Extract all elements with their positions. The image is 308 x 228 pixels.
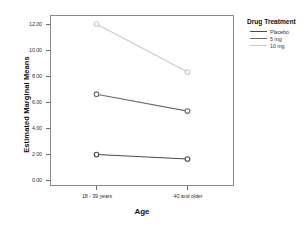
plot-frame [51, 16, 234, 186]
legend: Drug Treatment Placebo 5 mg 10 mg [244, 18, 306, 49]
data-point-marker [185, 70, 190, 75]
x-tick-label-older: 40 and older [152, 193, 224, 199]
legend-label-10mg: 10 mg [270, 43, 284, 49]
data-point-marker [94, 92, 99, 97]
legend-swatch-5mg-icon [250, 38, 267, 39]
legend-label-placebo: Placebo [270, 29, 289, 35]
legend-swatch-10mg-icon [250, 45, 267, 46]
legend-item-5mg[interactable]: 5 mg [250, 35, 306, 42]
y-axis-title: Estimated Marginal Means [22, 30, 31, 180]
data-point-marker [185, 157, 190, 162]
legend-item-placebo[interactable]: Placebo [250, 28, 306, 35]
data-point-marker [94, 152, 99, 157]
legend-title: Drug Treatment [247, 18, 306, 25]
legend-item-10mg[interactable]: 10 mg [250, 42, 306, 49]
legend-label-5mg: 5 mg [270, 36, 282, 42]
y-tick-marks [46, 25, 51, 181]
x-tick-marks [97, 186, 188, 191]
profile-plot-figure: 12.00 10.00 8.00 6.00 4.00 2.00 0.00 18 … [0, 0, 308, 228]
x-tick-label-young: 18 - 39 years [61, 193, 133, 199]
data-point-marker [94, 22, 99, 27]
y-tick-label: 12.00 [12, 21, 42, 27]
x-axis-title: Age [50, 207, 234, 216]
legend-swatch-placebo-icon [250, 31, 267, 32]
data-point-marker [185, 109, 190, 114]
